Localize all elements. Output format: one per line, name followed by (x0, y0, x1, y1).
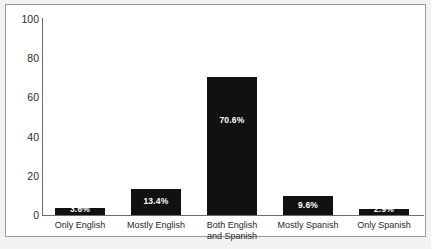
x-axis-category-label: Mostly English (113, 220, 199, 231)
x-axis-category-label: Only English (37, 220, 123, 231)
bar[interactable] (207, 77, 257, 215)
bar-group: 70.6%Both English and Spanish (207, 19, 257, 215)
bar-group: 9.6%Mostly Spanish (283, 19, 333, 215)
bar-value-label: 9.6% (283, 201, 333, 210)
figure-root: 020406080100 3.6%Only English13.4%Mostly… (0, 0, 431, 249)
y-axis-tick-label: 100 (11, 14, 39, 24)
plot-area: 3.6%Only English13.4%Mostly English70.6%… (42, 19, 422, 215)
x-axis-line (42, 215, 424, 216)
bar-value-label: 13.4% (131, 197, 181, 206)
bar-group: 2.9%Only Spanish (359, 19, 409, 215)
x-axis-category-label: Both English and Spanish (189, 220, 275, 241)
y-axis-tick-label: 0 (11, 210, 39, 220)
y-axis-tick-label: 80 (11, 53, 39, 63)
x-axis-category-label: Only Spanish (341, 220, 427, 231)
bar-value-label: 2.9% (359, 205, 409, 214)
bar-group: 13.4%Mostly English (131, 19, 181, 215)
y-axis-tick-label: 40 (11, 132, 39, 142)
y-axis-tick-labels: 020406080100 (6, 5, 39, 249)
figure-frame: 020406080100 3.6%Only English13.4%Mostly… (5, 4, 426, 237)
bar-value-label: 70.6% (207, 116, 257, 125)
bar-value-label: 3.6% (55, 205, 105, 214)
y-axis-tick-label: 60 (11, 92, 39, 102)
x-axis-category-label: Mostly Spanish (265, 220, 351, 231)
bar-group: 3.6%Only English (55, 19, 105, 215)
y-axis-tick-label: 20 (11, 171, 39, 181)
